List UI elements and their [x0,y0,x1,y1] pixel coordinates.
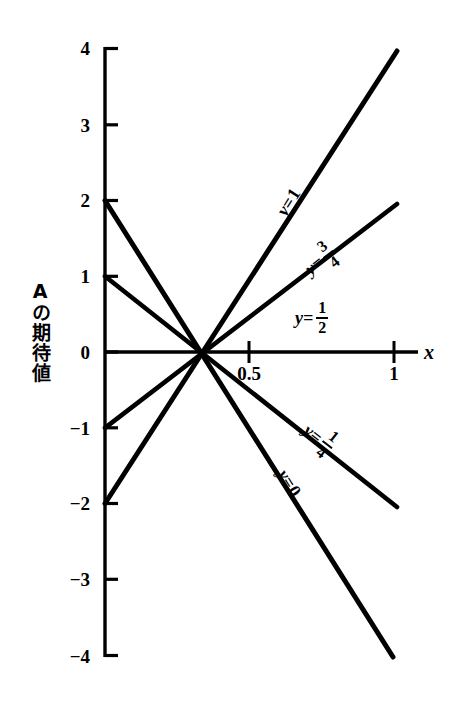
y-tick-label-minus-4: −4 [48,647,90,666]
y-tick-label-2: 2 [48,191,90,210]
fraction-denominator: 2 [316,317,328,336]
fraction-numerator: 1 [316,300,328,317]
chart-figure: 4 3 2 1 0 −1 −2 −3 −4 0.5 1 x Aの期待値 y=1 … [0,0,473,703]
x-axis-label: x [424,342,434,362]
series-label-y-eq-1-2: y=12 [295,300,328,336]
y-tick-label-minus-3: −3 [48,570,90,589]
y-tick-label-minus-1: −1 [48,419,90,438]
y-tick-label-4: 4 [48,39,90,58]
y-axis-label-char-2: 期 [29,323,51,343]
y-axis-label-char-0: A [29,280,51,303]
y-axis-label: Aの期待値 [30,280,49,383]
x-tick-label-0-5: 0.5 [219,364,279,383]
y-axis-label-char-3: 待 [29,343,51,363]
x-tick-label-1: 1 [364,364,424,383]
y-tick-label-minus-2: −2 [48,494,90,513]
series-label-y-eq-1-2-prefix: y= [295,309,313,327]
y-tick-label-0: 0 [48,343,90,362]
series-label-y-eq-1-2-fraction: 12 [316,300,328,336]
y-axis-label-char-1: の [29,303,51,323]
y-axis-label-char-4: 値 [29,363,51,383]
series-line-y-eq-0 [105,201,393,658]
y-tick-label-3: 3 [48,116,90,135]
y-tick-label-1: 1 [48,267,90,286]
